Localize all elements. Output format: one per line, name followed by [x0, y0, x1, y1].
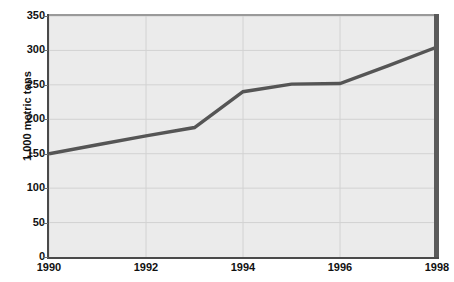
- x-tick-label: 1998: [407, 261, 454, 273]
- x-tick-label: 1992: [116, 261, 176, 273]
- y-tick-mark: [43, 257, 48, 258]
- y-tick-mark: [43, 50, 48, 51]
- x-tick-label: 1996: [310, 261, 370, 273]
- x-tick-label: 1994: [213, 261, 273, 273]
- y-tick-mark: [43, 85, 48, 86]
- y-tick-mark: [43, 154, 48, 155]
- y-tick-mark: [43, 223, 48, 224]
- x-tick-label: 1990: [19, 261, 79, 273]
- y-tick-mark: [43, 188, 48, 189]
- y-tick-mark: [43, 16, 48, 17]
- y-tick-mark: [43, 119, 48, 120]
